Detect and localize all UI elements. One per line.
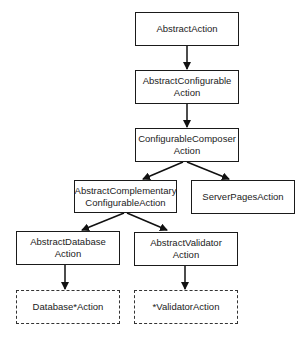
node-database-star-action: Database*Action [16,290,120,324]
inheritance-edges [0,0,308,339]
node-configurable-composer-action: ConfigurableComposer Action [135,128,239,162]
node-label: AbstractAction [156,23,217,35]
node-label: ServerPagesAction [202,191,283,203]
node-abstract-validator-action: AbstractValidator Action [134,232,238,266]
node-label-line1: AbstractComplementary [75,185,177,197]
node-abstract-complementary-configurable-action: AbstractComplementary ConfigurableAction [74,180,177,213]
node-star-validator-action: *ValidatorAction [134,290,238,324]
node-label-line2: Action [30,248,106,260]
node-abstract-action: AbstractAction [135,12,239,46]
node-label: *ValidatorAction [153,301,220,313]
node-label-line1: AbstractValidator [150,237,222,249]
edge-composer-to-serverpages [187,162,229,179]
node-label-line1: ConfigurableComposer [138,133,236,145]
node-server-pages-action: ServerPagesAction [191,180,295,214]
edge-complementary-to-database [82,213,124,230]
node-abstract-database-action: AbstractDatabase Action [16,231,120,265]
node-label-line2: Action [138,145,236,157]
node-label-line2: Action [150,249,222,261]
node-label-line1: AbstractDatabase [30,236,106,248]
node-label-line2: ConfigurableAction [75,197,177,209]
edge-complementary-to-validator [127,213,167,230]
node-label-line2: Action [143,87,232,99]
node-abstract-configurable-action: AbstractConfigurable Action [135,70,239,104]
node-label-line1: AbstractConfigurable [143,75,232,87]
node-label: Database*Action [33,301,104,313]
edge-composer-to-complementary [143,162,183,179]
